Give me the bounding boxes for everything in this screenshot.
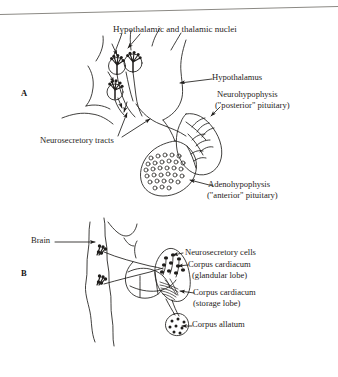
label-neurohypophysis-sub: ("posterior" pituitary) <box>215 101 290 110</box>
figure-artwork <box>0 0 338 377</box>
label-hypothalamus: Hypothalamus <box>212 73 262 82</box>
label-corpus-cardiacum-storage-sub: (storage lobe) <box>193 299 240 308</box>
label-neurosecretory-cells: Neurosecretory cells <box>185 248 256 257</box>
label-brain: Brain <box>31 236 50 245</box>
label-corpus-cardiacum-glandular-sub: (glandular lobe) <box>192 271 247 280</box>
panel-letter-a: A <box>21 88 27 98</box>
brain-neurosecretory-cells-upper <box>97 244 107 255</box>
label-neurosecretory-tracts: Neurosecretory tracts <box>40 136 114 145</box>
label-corpus-cardiacum-glandular: Corpus cardiacum <box>188 260 251 269</box>
figure-page: A B Hypothalamic and thalamic nuclei Hyp… <box>0 0 338 377</box>
label-neurohypophysis: Neurohypophysis <box>217 90 278 99</box>
neurosecretory-cell-cluster-lower <box>107 79 124 100</box>
label-adenohypophysis: Adenohypophysis <box>208 180 270 189</box>
panel-letter-b: B <box>21 268 27 278</box>
label-adenohypophysis-sub: ("anterior" pituitary) <box>207 191 278 200</box>
label-corpus-cardiacum-storage: Corpus cardiacum <box>193 288 256 297</box>
label-hypothalamic-and-thalamic-nuclei: Hypothalamic and thalamic nuclei <box>113 25 237 35</box>
top-rule <box>0 7 338 15</box>
label-corpus-allatum: Corpus allatum <box>192 320 245 329</box>
panel-b-artwork <box>55 218 194 346</box>
panel-a-artwork <box>62 28 222 196</box>
neurosecretory-cell-cluster-upper <box>109 51 143 75</box>
